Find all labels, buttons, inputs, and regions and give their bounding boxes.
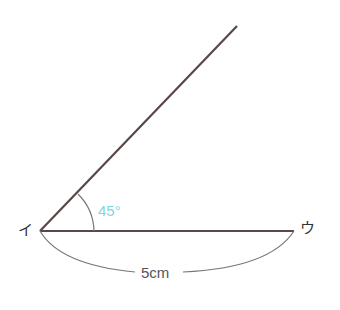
ray-45-degree <box>40 26 237 231</box>
length-arc-right <box>183 231 294 272</box>
point-label-i: イ <box>18 223 33 238</box>
diagram-canvas <box>0 0 340 310</box>
length-label: 5cm <box>138 265 172 280</box>
length-arc-left <box>40 231 135 272</box>
angle-arc <box>78 194 94 231</box>
point-label-u: ウ <box>300 221 315 236</box>
angle-label: 45° <box>98 203 121 218</box>
